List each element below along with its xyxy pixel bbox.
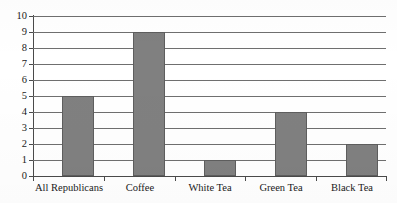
- y-tick-label: 9: [5, 27, 27, 37]
- y-tick-label: 2: [5, 139, 27, 149]
- bar-coffee: [133, 32, 165, 176]
- gridline: [33, 32, 386, 33]
- y-tick-label: 3: [5, 123, 27, 133]
- x-tick-mark: [104, 176, 105, 181]
- x-axis-label-green-tea: Green Tea: [240, 182, 322, 194]
- x-tick-mark: [175, 176, 176, 181]
- y-axis-tick-labels: 10 9 8 7 6 5 4 3 2 1 0: [0, 0, 27, 203]
- x-tick-mark: [245, 176, 246, 181]
- y-tick-label: 5: [5, 91, 27, 101]
- x-tick-mark: [316, 176, 317, 181]
- x-axis-label-black-tea: Black Tea: [311, 182, 393, 194]
- y-tick-label: 4: [5, 107, 27, 117]
- y-tick-label: 1: [5, 155, 27, 165]
- bar-black-tea: [346, 144, 378, 176]
- y-tick-label: 10: [5, 11, 27, 21]
- y-tick-label: 8: [5, 43, 27, 53]
- bar-all-republicans: [62, 96, 94, 176]
- bar-white-tea: [204, 160, 236, 176]
- gridline: [33, 48, 386, 49]
- x-tick-mark: [386, 176, 387, 181]
- y-tick-label: 0: [5, 171, 27, 181]
- x-axis-label-white-tea: White Tea: [169, 182, 251, 194]
- y-tick-label: 6: [5, 75, 27, 85]
- gridline: [33, 16, 386, 17]
- y-tick-label: 7: [5, 59, 27, 69]
- bar-green-tea: [275, 112, 307, 176]
- plot-area: [33, 16, 386, 176]
- x-tick-mark: [33, 176, 34, 181]
- gridline: [33, 64, 386, 65]
- bar-chart: 10 9 8 7 6 5 4 3 2 1 0: [0, 0, 397, 203]
- gridline: [33, 80, 386, 81]
- x-axis-line: [33, 176, 386, 177]
